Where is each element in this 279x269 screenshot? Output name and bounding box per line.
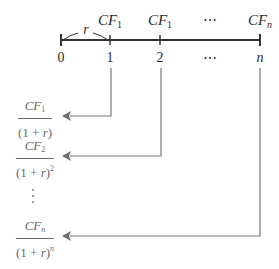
fraction-denominator: (1 + r)2 (16, 161, 54, 180)
discount-arrow-1 (62, 68, 111, 121)
discounted-value-n: CFn (1 + r)n (16, 219, 54, 260)
fraction-denominator: (1 + r)n (16, 241, 54, 260)
period-label-ellipsis: ⋯ (203, 50, 217, 67)
timeline-axis (61, 34, 260, 46)
period-label-0: 0 (58, 50, 65, 66)
discounted-value-2: CF2 (1 + r)2 (16, 139, 54, 180)
cash-flow-label-2: CF1 (148, 12, 172, 30)
fraction-numerator: CF2 (23, 139, 48, 157)
period-label-n: n (257, 50, 264, 66)
cash-flow-label-n: CFn (248, 12, 272, 30)
period-label-2: 2 (157, 50, 164, 66)
fraction-bar (16, 158, 54, 159)
period-label-1: 1 (107, 50, 114, 66)
cash-flow-ellipsis: ⋯ (203, 12, 217, 29)
fraction-bar (18, 118, 52, 119)
vertical-ellipsis (32, 189, 34, 203)
fraction-bar (16, 238, 54, 239)
cash-flow-label-1: CF1 (98, 12, 122, 30)
discounted-value-1: CF1 (1 + r) (18, 99, 52, 140)
fraction-numerator: CFn (23, 219, 48, 237)
fraction-numerator: CF1 (23, 99, 48, 117)
rate-label: r (83, 22, 88, 38)
